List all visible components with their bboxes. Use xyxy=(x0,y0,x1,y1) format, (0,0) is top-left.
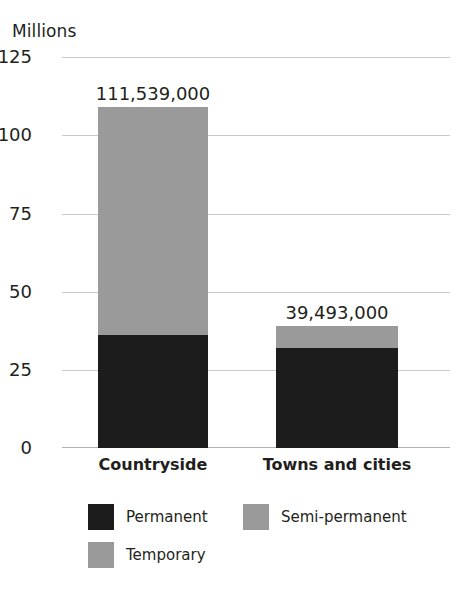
bar-segment-permanent[interactable] xyxy=(276,348,398,448)
y-tick-label-100: 100 xyxy=(0,126,32,144)
legend: Permanent Semi-permanent Temporary xyxy=(88,504,448,580)
legend-row-2: Temporary xyxy=(88,542,448,580)
stacked-bar-chart: Millions 125 100 75 50 25 0 111,539,000 … xyxy=(0,0,472,595)
bar-countryside[interactable] xyxy=(98,107,208,448)
legend-item-temporary[interactable]: Temporary xyxy=(88,542,206,568)
bar-segment-semi-permanent[interactable] xyxy=(98,107,208,335)
bar-segment-temporary[interactable] xyxy=(276,326,398,348)
legend-item-semi-permanent[interactable]: Semi-permanent xyxy=(243,504,407,530)
y-tick-label-25: 25 xyxy=(0,361,32,379)
bar-towns-and-cities[interactable] xyxy=(276,326,398,448)
x-axis-label-countryside: Countryside xyxy=(99,455,208,475)
bar-value-label-towns-and-cities: 39,493,000 xyxy=(285,304,388,322)
legend-swatch-semi-permanent-icon xyxy=(243,504,269,530)
legend-label-semi-permanent: Semi-permanent xyxy=(281,504,407,530)
y-tick-label-75: 75 xyxy=(0,205,32,223)
bar-value-label-countryside: 111,539,000 xyxy=(96,85,211,103)
legend-label-permanent: Permanent xyxy=(126,504,208,530)
legend-row-1: Permanent Semi-permanent xyxy=(88,504,448,542)
y-axis-title: Millions xyxy=(12,21,76,42)
legend-swatch-temporary-icon xyxy=(88,542,114,568)
legend-label-temporary: Temporary xyxy=(126,542,206,568)
y-tick-label-125: 125 xyxy=(0,48,32,66)
x-axis-label-towns-and-cities: Towns and cities xyxy=(263,455,412,475)
y-tick-label-50: 50 xyxy=(0,283,32,301)
legend-item-permanent[interactable]: Permanent xyxy=(88,504,208,530)
y-tick-label-0: 0 xyxy=(0,439,32,457)
gridline-125 xyxy=(62,57,450,58)
legend-swatch-permanent-icon xyxy=(88,504,114,530)
plot-area: 125 100 75 50 25 0 111,539,000 39,493,00… xyxy=(62,57,450,448)
bar-segment-permanent[interactable] xyxy=(98,335,208,448)
